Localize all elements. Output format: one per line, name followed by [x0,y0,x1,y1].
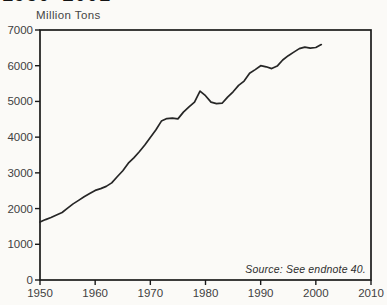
x-tick-label: 1960 [82,287,108,299]
source-note: Source: See endnote 40. [245,263,366,275]
y-tick-label: 6000 [7,60,33,72]
y-tick-label: 5000 [7,95,33,107]
y-tick-label: 4000 [7,131,33,143]
cropped-page-title: 1950–2001 [2,0,202,6]
line-chart: 0100020003000400050006000700019501960197… [0,0,387,305]
x-tick-label: 1970 [138,287,164,299]
chart-page: 1950–2001 Million Tons 01000200030004000… [0,0,387,305]
y-tick-label: 2000 [7,203,33,215]
y-axis-unit-label: Million Tons [36,9,101,21]
y-tick-label: 7000 [7,24,33,36]
data-line-million-tons [40,45,321,223]
x-tick-label: 1980 [193,287,219,299]
y-tick-label: 1000 [7,238,33,250]
x-tick-label: 1990 [248,287,274,299]
x-tick-label: 1950 [27,287,53,299]
plot-border [40,30,371,280]
x-tick-label: 2000 [303,287,329,299]
y-tick-label: 3000 [7,167,33,179]
x-tick-label: 2010 [358,287,384,299]
page-title-fragment: 1950–2001 [2,0,202,5]
y-tick-label: 0 [27,274,33,286]
